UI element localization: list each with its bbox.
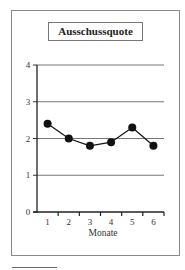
data-point-marker xyxy=(149,142,157,150)
y-tick-label: 2 xyxy=(26,134,31,144)
y-tick-label: 0 xyxy=(26,207,31,217)
series-line xyxy=(48,124,154,146)
y-tick-label: 1 xyxy=(26,170,31,180)
x-axis-title: Monate xyxy=(88,228,117,238)
gridlines xyxy=(37,65,164,175)
x-tick-label: 2 xyxy=(67,217,72,227)
y-tick-label: 3 xyxy=(26,97,31,107)
data-point-marker xyxy=(65,135,73,143)
x-tick-label: 4 xyxy=(109,217,114,227)
x-tick-label: 5 xyxy=(130,217,135,227)
data-point-marker xyxy=(107,138,115,146)
data-point-marker xyxy=(128,123,136,131)
line-chart: 01234 123456 Monate xyxy=(0,0,185,270)
y-tick-labels: 01234 xyxy=(26,60,31,217)
y-tick-label: 4 xyxy=(26,60,31,70)
x-tick-label: 3 xyxy=(88,217,93,227)
x-tick-label: 6 xyxy=(151,217,156,227)
x-tick-label: 1 xyxy=(45,217,50,227)
data-point-marker xyxy=(86,142,94,150)
axes xyxy=(33,65,164,216)
x-tick-labels: 123456 xyxy=(45,217,156,227)
divider xyxy=(12,267,57,268)
data-point-marker xyxy=(44,120,52,128)
